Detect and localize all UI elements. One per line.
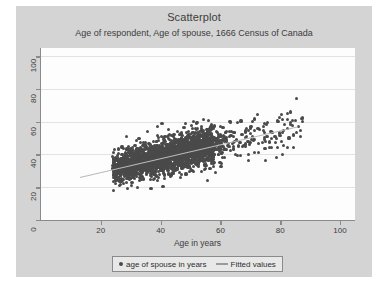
scatter-point xyxy=(249,125,252,128)
scatter-point xyxy=(149,178,152,181)
plot-inner xyxy=(41,48,355,220)
scatter-point xyxy=(182,158,185,161)
scatter-point xyxy=(256,113,259,116)
scatter-point xyxy=(262,125,265,128)
scatter-point xyxy=(187,134,190,137)
scatter-point xyxy=(161,148,164,151)
scatter-point xyxy=(137,137,140,140)
scatter-point xyxy=(289,123,292,126)
legend-label-scatter: age of spouse in years xyxy=(126,260,207,269)
scatter-point xyxy=(301,120,304,123)
scatter-point xyxy=(286,146,289,149)
scatter-point xyxy=(203,163,206,166)
scatter-point xyxy=(155,140,158,143)
scatter-point xyxy=(209,125,212,128)
scatter-point xyxy=(165,143,168,146)
scatter-point xyxy=(170,134,173,137)
scatter-point xyxy=(238,141,241,144)
scatter-point xyxy=(167,169,170,172)
scatter-point xyxy=(220,162,223,165)
scatter-point xyxy=(130,167,133,170)
scatter-point xyxy=(131,158,134,161)
scatter-point xyxy=(241,133,244,136)
chart-legend: age of spouse in years Fitted values xyxy=(112,256,283,272)
y-axis-label: 80 xyxy=(29,87,38,109)
scatter-point xyxy=(196,121,199,124)
legend-label-fitted: Fitted values xyxy=(231,260,276,269)
scatter-point xyxy=(214,171,217,174)
scatter-point xyxy=(210,162,213,165)
scatter-point xyxy=(202,118,205,121)
scatter-point xyxy=(138,179,141,182)
scatter-point xyxy=(178,133,181,136)
y-axis-label: 0 xyxy=(29,219,38,241)
scatter-point xyxy=(266,121,269,124)
x-axis-label: 100 xyxy=(327,226,353,235)
scatter-point xyxy=(173,164,176,167)
scatter-point xyxy=(133,177,136,180)
scatter-point xyxy=(117,147,120,150)
scatter-point xyxy=(124,153,127,156)
x-axis-tick xyxy=(280,220,281,225)
scatter-point xyxy=(275,156,278,159)
scatter-point xyxy=(292,146,295,149)
scatter-point xyxy=(280,140,283,143)
scatter-point xyxy=(189,146,192,149)
scatter-point xyxy=(169,175,172,178)
scatter-point xyxy=(125,181,128,184)
scatter-point xyxy=(207,137,210,140)
x-axis-label: 80 xyxy=(267,226,293,235)
scatter-point xyxy=(200,170,203,173)
scatter-point xyxy=(161,185,164,188)
scatter-point xyxy=(160,122,163,125)
scatter-point xyxy=(148,142,151,145)
scatter-point xyxy=(125,147,128,150)
scatter-point xyxy=(160,169,163,172)
scatter-point xyxy=(295,131,298,134)
scatter-point xyxy=(247,129,250,132)
scatter-point xyxy=(229,149,232,152)
scatter-point xyxy=(299,135,302,138)
x-axis-tick xyxy=(340,220,341,225)
scatter-point xyxy=(179,176,182,179)
scatter-point xyxy=(281,153,284,156)
gridline xyxy=(41,56,355,57)
legend-item-fitted: Fitted values xyxy=(216,260,276,269)
scatter-point xyxy=(112,189,115,192)
scatter-point xyxy=(136,186,139,189)
plot-area: 02040608010020406080100 xyxy=(40,48,355,221)
y-axis-label: 20 xyxy=(29,186,38,208)
scatter-point xyxy=(200,125,203,128)
scatter-point xyxy=(167,128,170,131)
scatter-point xyxy=(172,143,175,146)
scatter-point xyxy=(264,159,267,162)
scatter-point xyxy=(206,179,209,182)
scatter-point xyxy=(257,142,260,145)
scatter-point xyxy=(116,176,119,179)
scatter-point xyxy=(276,146,279,149)
scatter-point xyxy=(223,156,226,159)
scatter-point xyxy=(184,172,187,175)
gridline xyxy=(41,187,355,188)
scatter-point xyxy=(192,165,195,168)
legend-item-scatter: age of spouse in years xyxy=(119,260,207,269)
scatter-point xyxy=(195,128,198,131)
scatter-point xyxy=(219,165,222,168)
scatter-point xyxy=(253,151,256,154)
scatter-point xyxy=(253,117,256,120)
scatter-point xyxy=(268,146,271,149)
scatter-point xyxy=(121,178,124,181)
scatter-point xyxy=(166,166,169,169)
scatter-point xyxy=(289,110,292,113)
scatter-point xyxy=(299,129,302,132)
chart-subtitle: Age of respondent, Age of spouse, 1666 C… xyxy=(16,28,372,38)
scatter-point xyxy=(188,170,191,173)
scatter-point xyxy=(222,148,225,151)
scatter-point xyxy=(112,180,115,183)
scatter-point xyxy=(112,158,115,161)
x-axis-label: 40 xyxy=(148,226,174,235)
scatter-point xyxy=(190,124,193,127)
scatter-point xyxy=(138,158,141,161)
scatter-point xyxy=(261,141,264,144)
scatter-point xyxy=(216,148,219,151)
